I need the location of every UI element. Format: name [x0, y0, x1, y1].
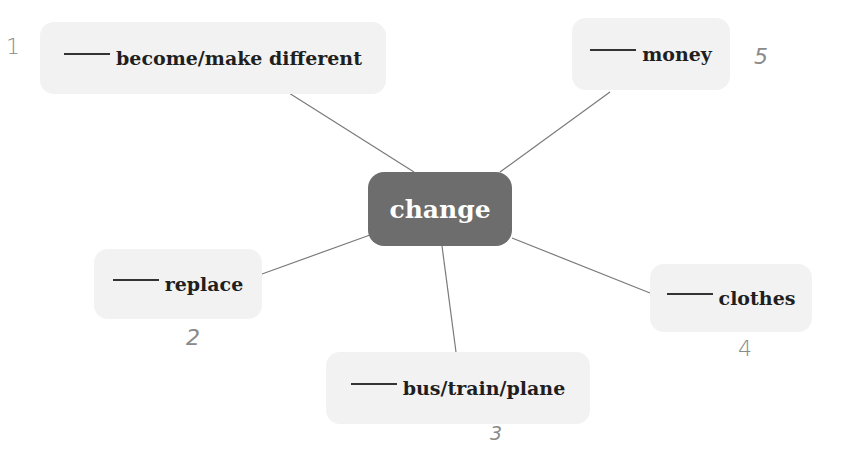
node-become-make-different: become/make different [40, 22, 386, 94]
center-label: change [389, 195, 490, 224]
node-clothes: clothes [650, 264, 812, 332]
node-replace: replace [94, 249, 262, 319]
connector-clothes [512, 238, 650, 293]
node-label: bus/train/plane [403, 377, 566, 399]
connector-replace [262, 235, 370, 274]
answer-blank[interactable] [667, 293, 713, 295]
handwritten-number-3: 3 [490, 422, 502, 444]
answer-blank[interactable] [351, 383, 397, 385]
node-bus-train-plane: bus/train/plane [326, 352, 590, 424]
connector-money [500, 92, 610, 172]
handwritten-number-2: 2 [186, 325, 200, 350]
answer-blank[interactable] [113, 279, 159, 281]
node-label: clothes [719, 287, 796, 309]
connector-become [289, 93, 414, 172]
node-money: money [572, 18, 730, 90]
center-node-change: change [368, 172, 512, 246]
handwritten-number-1: 1 [6, 34, 20, 59]
handwritten-number-4: 4 [738, 336, 752, 361]
connector-transport [442, 246, 456, 352]
node-label: replace [165, 273, 244, 295]
answer-blank[interactable] [590, 49, 636, 51]
handwritten-number-5: 5 [754, 44, 768, 69]
node-label: money [642, 43, 712, 65]
node-label: become/make different [116, 47, 362, 69]
answer-blank[interactable] [64, 53, 110, 55]
